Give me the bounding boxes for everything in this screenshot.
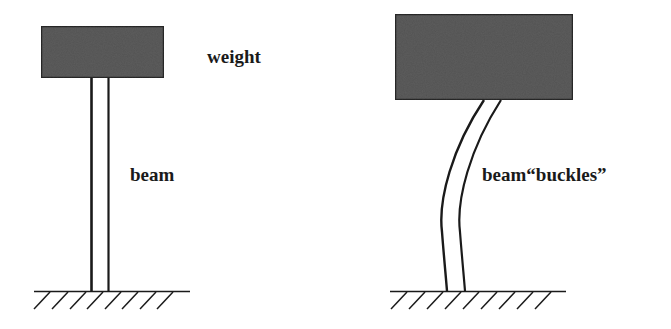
weight-label: weight — [207, 47, 261, 66]
beam-label: beam — [130, 165, 174, 184]
weight-block — [42, 27, 164, 78]
weight-block-buckled — [396, 15, 573, 100]
beam-buckles-label: beam“buckles” — [482, 165, 607, 184]
ground-hatch — [34, 292, 190, 310]
right-panel — [390, 15, 573, 310]
ground-hatch-buckled — [390, 292, 566, 310]
buckled-beam — [441, 100, 501, 291]
straight-beam — [92, 78, 109, 291]
